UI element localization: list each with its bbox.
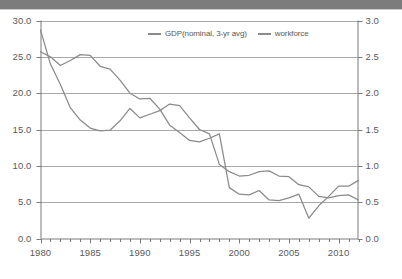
legend-label-workforce: workforce [275, 29, 309, 38]
x-axis-tick-label: 1995 [170, 247, 210, 258]
right-axis-tick-label: 0.5 [366, 196, 396, 207]
right-axis-tick-label: 0.0 [366, 233, 396, 244]
chart-figure: 0.05.010.015.020.025.030.00.00.51.01.52.… [0, 0, 402, 279]
left-axis-tick-label: 5.0 [2, 196, 32, 207]
legend-swatch-workforce [258, 33, 271, 35]
x-axis-tick-label: 1985 [70, 247, 110, 258]
right-axis-tick-label: 2.5 [366, 51, 396, 62]
right-axis-tick-label: 1.5 [366, 124, 396, 135]
right-axis-tick-label: 2.0 [366, 87, 396, 98]
legend-entry-workforce: workforce [258, 29, 309, 38]
legend-label-gdp: GDP(nominal, 3-yr avg) [165, 29, 247, 38]
right-axis-tick-label: 3.0 [366, 15, 396, 26]
left-axis-tick-label: 0.0 [2, 233, 32, 244]
plot-area [0, 0, 402, 279]
legend-entry-gdp: GDP(nominal, 3-yr avg) [148, 29, 247, 38]
x-axis-tick-label: 1980 [21, 247, 61, 258]
right-axis-tick-label: 1.0 [366, 160, 396, 171]
legend-swatch-gdp [148, 33, 161, 35]
gridlines-group [41, 22, 359, 203]
left-axis-tick-label: 20.0 [2, 87, 32, 98]
left-axis-tick-label: 10.0 [2, 160, 32, 171]
left-axis-tick-label: 25.0 [2, 51, 32, 62]
series-line-workforce [41, 52, 359, 218]
left-axis-tick-label: 15.0 [2, 124, 32, 135]
data-series-group [41, 30, 359, 218]
x-axis-tick-label: 2010 [319, 247, 359, 258]
x-axis-tick-label: 2000 [219, 247, 259, 258]
x-axis-tick-label: 1990 [120, 247, 160, 258]
x-axis-tick-label: 2005 [269, 247, 309, 258]
left-axis-tick-label: 30.0 [2, 15, 32, 26]
chart-legend: GDP(nominal, 3-yr avg) workforce [148, 29, 309, 38]
